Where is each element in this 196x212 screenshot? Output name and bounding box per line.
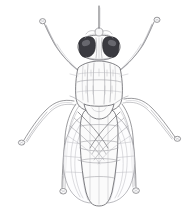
illustration-canvas <box>0 0 196 212</box>
head <box>78 35 120 61</box>
thorax <box>70 61 128 112</box>
abdomen <box>80 110 118 206</box>
fly-dorsal-illustration <box>0 0 196 212</box>
antennal-segment <box>95 28 103 36</box>
